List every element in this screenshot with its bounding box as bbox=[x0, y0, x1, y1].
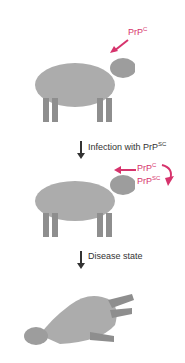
conversion-arrow-icon bbox=[160, 162, 176, 188]
prpc-label: PrPC bbox=[128, 26, 147, 37]
infected-sheep bbox=[25, 163, 135, 243]
diseased-sheep bbox=[20, 280, 140, 350]
step-infection-label: Infection with PrPSC bbox=[88, 141, 166, 152]
prpc-label-2: PrPC bbox=[137, 162, 156, 173]
step-disease-label: Disease state bbox=[88, 251, 143, 261]
pink-left-arrow-icon bbox=[114, 166, 136, 174]
down-arrow-icon bbox=[77, 141, 85, 159]
pink-arrow-icon bbox=[110, 38, 130, 54]
down-arrow-icon bbox=[77, 251, 85, 269]
prpsc-label: PrPSC bbox=[137, 175, 160, 186]
